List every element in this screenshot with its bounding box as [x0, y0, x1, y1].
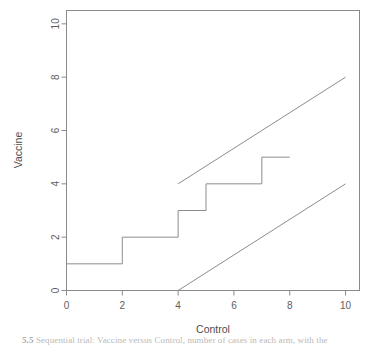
- y-axis-tick-labels: 0246810: [50, 18, 61, 293]
- plot-frame: [67, 11, 360, 291]
- x-axis-tick-labels: 0246810: [64, 300, 352, 311]
- plot-box-group: [67, 11, 360, 291]
- y-tick-label: 10: [50, 18, 61, 30]
- x-tick-label: 0: [64, 300, 70, 311]
- data-series-group: [67, 77, 346, 290]
- x-tick-label: 10: [340, 300, 352, 311]
- x-tick-label: 8: [287, 300, 293, 311]
- x-tick-label: 4: [175, 300, 181, 311]
- y-axis-ticks: [62, 24, 67, 291]
- series-step-path: [67, 157, 290, 290]
- y-tick-label: 0: [50, 287, 61, 293]
- x-tick-label: 6: [231, 300, 237, 311]
- y-axis-title: Vaccine: [12, 132, 24, 169]
- y-tick-label: 2: [50, 234, 61, 240]
- y-tick-label: 6: [50, 127, 61, 133]
- chart-canvas: 0246810 0246810 Control Vaccine: [0, 0, 385, 347]
- x-axis-ticks: [67, 291, 346, 296]
- x-tick-label: 2: [120, 300, 126, 311]
- y-tick-label: 8: [50, 74, 61, 80]
- figure-container: 0246810 0246810 Control Vaccine 5.5 Sequ…: [0, 0, 385, 347]
- y-tick-label: 4: [50, 181, 61, 187]
- x-axis-title: Control: [196, 323, 230, 335]
- series-lower-boundary-line: [178, 184, 345, 291]
